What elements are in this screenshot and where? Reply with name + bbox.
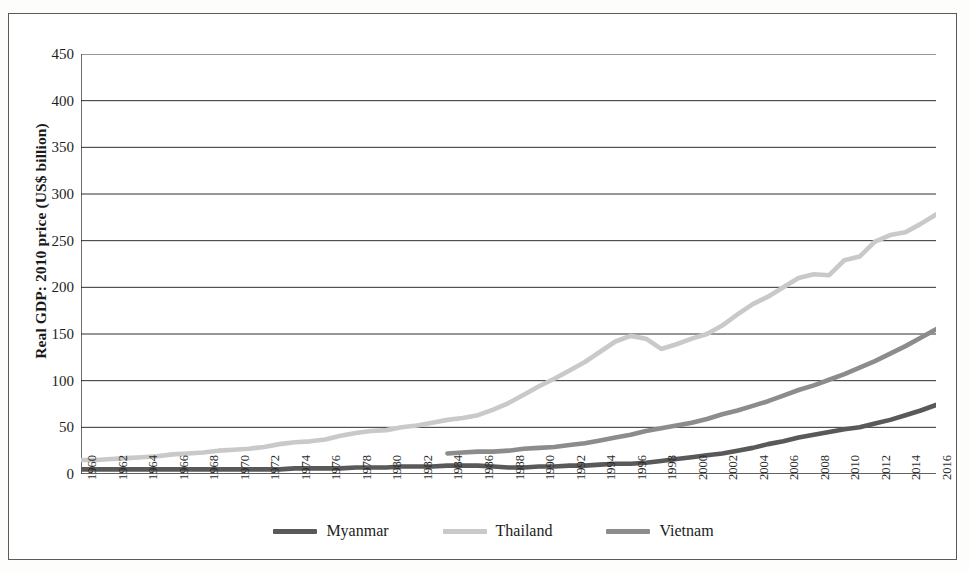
y-tick-label: 300 (52, 186, 75, 203)
x-tick-label: 2006 (787, 455, 802, 480)
plot-inner (81, 54, 936, 474)
x-tick-label: 1992 (574, 455, 589, 480)
x-tick-label: 1968 (207, 455, 222, 480)
legend-label: Vietnam (659, 522, 713, 540)
x-tick-label: 1966 (177, 455, 192, 480)
x-tick-label: 2000 (696, 455, 711, 480)
legend-label: Myanmar (326, 522, 388, 540)
x-tick-label: 1978 (360, 455, 375, 480)
y-tick-label: 150 (52, 326, 75, 343)
legend-swatch-icon (273, 529, 317, 534)
x-tick-label: 2002 (726, 455, 741, 480)
x-tick-label: 2010 (848, 455, 863, 480)
x-tick-label: 1960 (85, 455, 100, 480)
legend-label: Thailand (496, 522, 553, 540)
y-tick-label: 350 (52, 139, 75, 156)
legend-item[interactable]: Vietnam (606, 522, 713, 540)
x-tick-label: 1998 (665, 455, 680, 480)
x-tick-label: 1988 (513, 455, 528, 480)
x-tick-label: 1994 (604, 455, 619, 480)
series-line-thailand (81, 215, 936, 460)
x-tick-label: 2012 (879, 455, 894, 480)
legend-swatch-icon (606, 529, 650, 534)
x-tick-label: 1962 (116, 455, 131, 480)
y-tick-label: 50 (59, 419, 74, 436)
line-chart-svg (81, 54, 936, 474)
y-tick-label: 400 (52, 92, 75, 109)
legend-item[interactable]: Myanmar (273, 522, 388, 540)
legend-swatch-icon (443, 529, 487, 534)
y-tick-label: 100 (52, 372, 75, 389)
x-tick-label: 2008 (818, 455, 833, 480)
x-tick-label: 1996 (635, 455, 650, 480)
x-tick-label: 2004 (757, 455, 772, 480)
x-tick-label: 1982 (421, 455, 436, 480)
chart-frame: Real GDP: 2010 price (US$ billion) 05010… (8, 13, 957, 560)
y-tick-label: 0 (67, 466, 75, 483)
x-tick-label: 1976 (329, 455, 344, 480)
x-tick-label: 1984 (451, 455, 466, 480)
y-axis-title: Real GDP: 2010 price (US$ billion) (32, 31, 50, 451)
y-tick-label: 250 (52, 232, 75, 249)
x-tick-label: 2016 (940, 455, 955, 480)
x-tick-label: 1990 (543, 455, 558, 480)
x-tick-label: 2014 (909, 455, 924, 480)
y-tick-label: 200 (52, 279, 75, 296)
x-tick-label: 1974 (299, 455, 314, 480)
x-tick-label: 1964 (146, 455, 161, 480)
x-tick-label: 1972 (268, 455, 283, 480)
chart-legend: MyanmarThailandVietnam (9, 522, 969, 540)
plot-area: 050100150200250300350400450 196019621964… (81, 54, 936, 474)
x-tick-label: 1980 (390, 455, 405, 480)
x-tick-label: 1986 (482, 455, 497, 480)
y-tick-label: 450 (52, 46, 75, 63)
chart-page: Real GDP: 2010 price (US$ billion) 05010… (0, 0, 969, 572)
x-tick-label: 1970 (238, 455, 253, 480)
legend-item[interactable]: Thailand (443, 522, 553, 540)
